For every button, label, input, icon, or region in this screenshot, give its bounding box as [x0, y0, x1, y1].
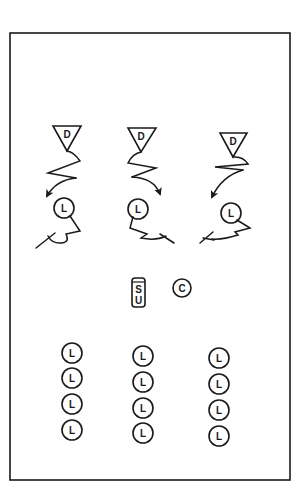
line-column-1: L L L L	[62, 343, 82, 440]
player-label: L	[135, 204, 141, 215]
front-player-2: L	[128, 199, 148, 219]
player-label: L	[216, 379, 222, 390]
player-label: L	[69, 425, 75, 436]
defender-label: D	[63, 129, 70, 140]
player-label: L	[140, 428, 146, 439]
movement-path-2	[128, 152, 156, 177]
line-column-3: L L L L	[209, 348, 229, 446]
front-player-1: L	[54, 198, 74, 218]
defender-label: D	[137, 131, 144, 142]
movement-path-1	[48, 151, 80, 178]
play-diagram: D L D L D L S U C	[0, 0, 307, 493]
block-line-3	[200, 232, 214, 243]
player-label: L	[216, 353, 222, 364]
coach: C	[173, 279, 191, 297]
movement-arrow-2	[132, 177, 160, 194]
player-label: L	[140, 377, 146, 388]
player-label: L	[61, 203, 67, 214]
setup-label-top: S	[135, 284, 142, 295]
movement-arrow-1	[47, 178, 76, 196]
player-label: L	[228, 208, 234, 219]
defender-label: D	[229, 136, 236, 147]
player-label: L	[216, 431, 222, 442]
defender-2: D	[128, 128, 156, 152]
player-label: L	[69, 348, 75, 359]
player-label: L	[140, 403, 146, 414]
setup-player: S U	[132, 278, 145, 307]
player-label: L	[140, 351, 146, 362]
block-line-2	[160, 234, 174, 243]
player-label: L	[216, 405, 222, 416]
movement-arrow-3	[212, 170, 243, 197]
block-path-1	[48, 216, 80, 243]
defender-1: D	[53, 126, 81, 151]
line-column-2: L L L L	[133, 346, 153, 443]
player-label: L	[69, 399, 75, 410]
movement-path-3	[215, 157, 248, 170]
coach-label: C	[178, 283, 185, 294]
player-label: L	[69, 373, 75, 384]
block-path-2	[130, 217, 166, 239]
defender-3: D	[220, 133, 247, 157]
setup-label-bottom: U	[135, 295, 142, 306]
